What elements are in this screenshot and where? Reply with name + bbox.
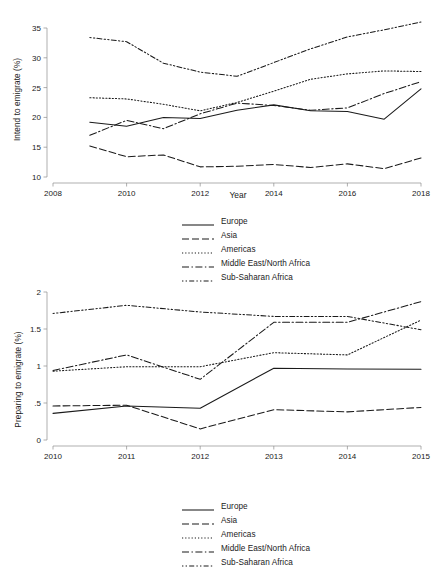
legend-line-swatch-dash-dot-dot bbox=[181, 272, 215, 282]
y-tick-label: .5 bbox=[34, 399, 41, 408]
legend-line-swatch-dotted bbox=[181, 244, 215, 254]
legend-item-europe: Europe bbox=[0, 499, 441, 513]
legend-item-americas: Americas bbox=[0, 527, 441, 541]
y-axis-label-top: Intend to emigrate (%) bbox=[13, 40, 22, 160]
legend-item-middle-east-north-africa: Middle East/North Africa bbox=[0, 256, 441, 270]
y-tick-label: 10 bbox=[32, 173, 41, 182]
legend-item-label: Europe bbox=[221, 217, 248, 226]
legend-item-label: Asia bbox=[221, 231, 237, 240]
y-tick-label: 0 bbox=[37, 436, 42, 445]
series-line-middle-east-north-africa bbox=[90, 82, 421, 136]
y-tick-label: 1.5 bbox=[30, 325, 42, 334]
legend-line-swatch-solid bbox=[181, 501, 215, 511]
series-line-asia bbox=[53, 405, 421, 429]
legend-line-swatch-long-dash bbox=[181, 230, 215, 240]
series-line-americas bbox=[53, 320, 421, 371]
legend-line-swatch-dash-dot-dot bbox=[181, 557, 215, 567]
legend-item-label: Americas bbox=[221, 245, 256, 254]
legend-item-sub-saharan-africa: Sub-Saharan Africa bbox=[0, 270, 441, 284]
plot-area-bottom: 2010201120122013201420150.511.52 bbox=[0, 285, 441, 495]
legend-line-swatch-long-dash bbox=[181, 515, 215, 525]
legend-line-swatch-dash-dot bbox=[181, 258, 215, 268]
y-tick-label: 35 bbox=[32, 24, 41, 33]
legend-item-label: Middle East/North Africa bbox=[221, 544, 310, 553]
legend-item-americas: Americas bbox=[0, 242, 441, 256]
legend-item-label: Americas bbox=[221, 530, 256, 539]
legend-line-swatch-dotted bbox=[181, 529, 215, 539]
y-tick-label: 25 bbox=[32, 84, 41, 93]
chart-panel-intend-to-emigrate: Intend to emigrate (%) 20082010201220142… bbox=[0, 0, 441, 210]
series-line-europe bbox=[53, 368, 421, 413]
legend-line-swatch-solid bbox=[181, 216, 215, 226]
plot-area-top: 200820102012201420162018101520253035 bbox=[0, 0, 441, 210]
series-line-asia bbox=[90, 146, 421, 169]
legend-item-label: Sub-Saharan Africa bbox=[221, 558, 293, 567]
x-tick-label: 2015 bbox=[412, 452, 430, 461]
legend-item-sub-saharan-africa: Sub-Saharan Africa bbox=[0, 555, 441, 569]
y-tick-label: 20 bbox=[32, 113, 41, 122]
y-tick-label: 1 bbox=[37, 362, 42, 371]
legend-top: EuropeAsiaAmericasMiddle East/North Afri… bbox=[0, 214, 441, 284]
legend-bottom: EuropeAsiaAmericasMiddle East/North Afri… bbox=[0, 499, 441, 569]
series-line-sub-saharan-africa bbox=[90, 22, 421, 76]
legend-item-label: Middle East/North Africa bbox=[221, 259, 310, 268]
legend-item-europe: Europe bbox=[0, 214, 441, 228]
figure-container: Intend to emigrate (%) 20082010201220142… bbox=[0, 0, 441, 569]
x-tick-label: 2014 bbox=[339, 452, 357, 461]
x-tick-label: 2011 bbox=[118, 452, 136, 461]
legend-item-label: Asia bbox=[221, 516, 237, 525]
chart-panel-preparing-to-emigrate: Preparing to emigrate (%) 20102011201220… bbox=[0, 285, 441, 495]
legend-item-label: Sub-Saharan Africa bbox=[221, 273, 293, 282]
legend-item-label: Europe bbox=[221, 502, 248, 511]
legend-item-asia: Asia bbox=[0, 513, 441, 527]
x-tick-label: 2013 bbox=[265, 452, 283, 461]
x-tick-label: 2012 bbox=[191, 452, 209, 461]
legend-item-asia: Asia bbox=[0, 228, 441, 242]
x-tick-label: 2010 bbox=[44, 452, 62, 461]
series-line-americas bbox=[90, 71, 421, 111]
series-line-europe bbox=[90, 89, 421, 127]
y-axis-label-bottom: Preparing to emigrate (%) bbox=[14, 315, 23, 445]
y-tick-label: 30 bbox=[32, 54, 41, 63]
y-tick-label: 2 bbox=[37, 288, 42, 297]
legend-item-middle-east-north-africa: Middle East/North Africa bbox=[0, 541, 441, 555]
x-axis-label-top: Year bbox=[53, 190, 423, 200]
legend-line-swatch-dash-dot bbox=[181, 543, 215, 553]
y-tick-label: 15 bbox=[32, 143, 41, 152]
